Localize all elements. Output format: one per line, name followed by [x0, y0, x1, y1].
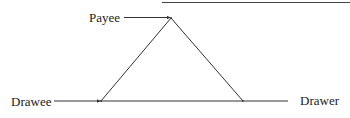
payee-label: Payee	[89, 10, 120, 25]
triangle	[101, 18, 243, 101]
triangle-right-side	[171, 18, 243, 101]
diagram-canvas: Payee Drawee Drawer	[0, 0, 350, 118]
right-vertex-dot	[242, 100, 244, 102]
drawee-label: Drawee	[11, 94, 52, 109]
left-vertex-dot	[100, 100, 102, 102]
triangle-left-side	[101, 18, 171, 101]
drawer-label: Drawer	[300, 93, 340, 108]
apex-vertex-dot	[170, 17, 172, 19]
